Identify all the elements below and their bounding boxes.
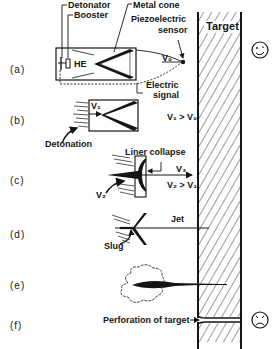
detonation-label: Detonation bbox=[45, 139, 92, 149]
shaped-charge-diagram: (a) (b) (c) (d) (e) (f) Target Detonator… bbox=[0, 0, 279, 349]
sensor-label: sensor bbox=[158, 25, 188, 35]
stage-label-e: (e) bbox=[10, 280, 25, 291]
jet-label: Jet bbox=[171, 214, 184, 224]
frowning-face-icon bbox=[252, 312, 268, 328]
metal-cone-label: Metal cone bbox=[133, 0, 180, 10]
smiley-face-icon bbox=[252, 42, 268, 58]
detonator-label: Detonator bbox=[68, 0, 111, 10]
perforation-label: Perforation of target bbox=[103, 315, 190, 325]
v2-gt-v1-label: V₂ > V₁ bbox=[167, 180, 197, 190]
stage-label-c: (c) bbox=[10, 175, 25, 186]
v2-label: V₂ bbox=[96, 190, 106, 200]
slug-label: Slug bbox=[104, 241, 124, 251]
v1-gt-v0-label: V₁ > V₀ bbox=[167, 112, 197, 122]
stage-label-f: (f) bbox=[10, 320, 22, 331]
stage-d-jet bbox=[112, 213, 209, 245]
electric-label: Electric bbox=[146, 80, 179, 90]
v3-label: V₃ bbox=[176, 164, 186, 174]
v0-label: V₀ bbox=[162, 53, 172, 63]
piezoelectric-label: Piezoelectric bbox=[131, 14, 186, 24]
v1-label: V₁ bbox=[91, 101, 101, 111]
target-slab bbox=[198, 12, 241, 349]
booster-label: Booster bbox=[74, 10, 108, 20]
stage-label-a: (a) bbox=[10, 64, 25, 75]
stage-label-b: (b) bbox=[10, 115, 25, 126]
liner-collapse-label: Liner collapse bbox=[125, 147, 186, 157]
he-label: HE bbox=[74, 59, 87, 69]
target-label: Target bbox=[206, 21, 239, 31]
stage-c-collapse bbox=[106, 155, 192, 197]
stage-label-d: (d) bbox=[10, 229, 25, 240]
signal-label: signal bbox=[153, 90, 179, 100]
